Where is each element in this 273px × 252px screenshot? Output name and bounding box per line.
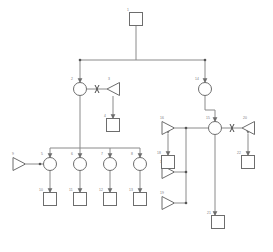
triangle-shape-3[interactable] xyxy=(107,83,120,96)
individual-node-20[interactable]: 20 xyxy=(242,116,255,135)
circle-shape-7[interactable] xyxy=(104,158,117,171)
square-shape-10[interactable] xyxy=(44,193,57,206)
circle-shape-14[interactable] xyxy=(199,83,212,96)
individual-node-19[interactable]: 19 xyxy=(160,191,175,210)
triangle-shape-9[interactable] xyxy=(13,158,26,171)
circle-shape-2[interactable] xyxy=(74,83,87,96)
node-label-11: 11 xyxy=(69,188,73,192)
circle-shape-8[interactable] xyxy=(134,158,147,171)
square-shape-21[interactable] xyxy=(212,216,225,229)
node-label-20: 20 xyxy=(243,116,247,120)
node-label-15: 15 xyxy=(206,116,210,120)
square-shape-18[interactable] xyxy=(162,156,175,169)
junction-9-5 xyxy=(39,163,42,166)
circle-shape-15[interactable] xyxy=(209,122,222,135)
square-shape-1[interactable] xyxy=(130,13,143,26)
individual-node-1[interactable]: 1 xyxy=(127,8,143,26)
node-label-8: 8 xyxy=(131,152,133,156)
individual-node-9[interactable]: 9 xyxy=(12,152,26,171)
square-shape-4[interactable] xyxy=(107,119,120,132)
junction-17-bus xyxy=(185,171,188,174)
pedigree-chart: 1 2 3 4 5 xyxy=(0,0,273,252)
node-label-14: 14 xyxy=(195,77,199,81)
individual-node-14[interactable]: 14 xyxy=(195,77,212,96)
square-shape-22[interactable] xyxy=(242,156,255,169)
individual-node-4[interactable]: 4 xyxy=(104,114,120,132)
node-label-13: 13 xyxy=(129,188,133,192)
junction-layer xyxy=(39,59,207,205)
individual-node-10[interactable]: 10 xyxy=(39,188,57,206)
node-label-9: 9 xyxy=(12,152,14,156)
pedigree-canvas: 1 2 3 4 5 xyxy=(0,0,273,252)
node-label-1: 1 xyxy=(127,8,129,12)
node-label-22: 22 xyxy=(237,151,241,155)
square-shape-11[interactable] xyxy=(74,193,87,206)
individual-node-11[interactable]: 11 xyxy=(69,188,87,206)
square-shape-13[interactable] xyxy=(134,193,147,206)
node-label-2: 2 xyxy=(71,77,73,81)
triangle-shape-19[interactable] xyxy=(162,197,175,210)
node-label-7: 7 xyxy=(101,152,103,156)
node-label-21: 21 xyxy=(207,211,211,215)
circle-shape-6[interactable] xyxy=(74,158,87,171)
junction-top-right xyxy=(204,59,207,62)
node-label-5: 5 xyxy=(41,152,43,156)
individual-node-22[interactable]: 22 xyxy=(237,151,255,169)
junction-top-left xyxy=(79,59,82,62)
junction-19-bus xyxy=(185,202,188,205)
node-layer: 1 2 3 4 5 xyxy=(12,8,255,229)
circle-shape-5[interactable] xyxy=(44,158,57,171)
square-shape-12[interactable] xyxy=(104,193,117,206)
node-label-18: 18 xyxy=(157,151,161,155)
node-label-10: 10 xyxy=(39,188,43,192)
node-label-3: 3 xyxy=(108,77,110,81)
node-label-12: 12 xyxy=(99,188,103,192)
node-label-6: 6 xyxy=(71,152,73,156)
individual-node-16[interactable]: 16 xyxy=(160,116,175,135)
node-label-16: 16 xyxy=(160,116,164,120)
junction-16-bus xyxy=(185,127,188,130)
node-label-4: 4 xyxy=(104,114,106,118)
individual-node-3[interactable]: 3 xyxy=(107,77,120,96)
individual-node-13[interactable]: 13 xyxy=(129,188,147,206)
node-label-19: 19 xyxy=(160,191,164,195)
individual-node-12[interactable]: 12 xyxy=(99,188,117,206)
